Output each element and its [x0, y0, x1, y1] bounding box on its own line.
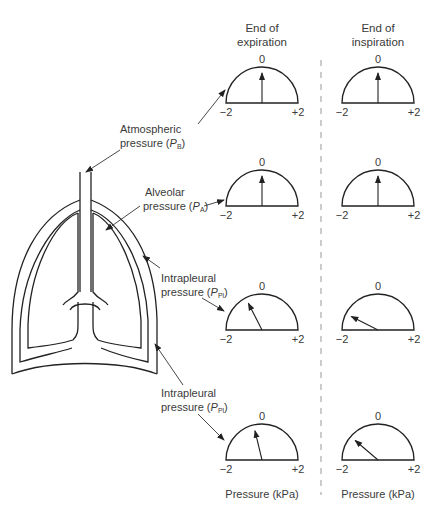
- gauge-alveolar-expiration: 0−2+2: [220, 156, 305, 221]
- column-header-expiration-line2: expiration: [237, 36, 287, 48]
- arrow-intrapleural1-to-gauge: [202, 298, 224, 311]
- respiratory-pressure-diagram: End of expiration End of inspiration 0−2…: [0, 0, 440, 513]
- gauge-max-label: +2: [408, 106, 421, 118]
- gauge-needle: [355, 441, 378, 461]
- gauge-zero-label: 0: [259, 280, 265, 292]
- arrow-atmospheric-to-trachea: [86, 150, 120, 172]
- gauge-zero-label: 0: [375, 53, 381, 65]
- gauge-min-label: −2: [336, 209, 349, 221]
- gauge-intrapleural_1-inspiration: 0−2+2: [336, 280, 421, 345]
- arrow-intrapleural2-to-gauge: [198, 414, 224, 440]
- gauge-needle: [351, 316, 378, 330]
- alveolar-label-line1: Alveolar: [145, 186, 185, 198]
- gauge-min-label: −2: [220, 463, 233, 475]
- gauge-zero-label: 0: [259, 156, 265, 168]
- label-alveolar-pressure: Alveolar pressure (PA): [143, 186, 208, 213]
- gauge-intrapleural_1-expiration: 0−2+2: [220, 280, 305, 345]
- gauge-dial: [226, 424, 298, 460]
- gauge-needle: [248, 303, 262, 330]
- gauge-min-label: −2: [220, 333, 233, 345]
- gauge-dial: [342, 294, 414, 330]
- gauge-min-label: −2: [220, 106, 233, 118]
- gauge-needle: [255, 431, 262, 460]
- intrapleural1-label-line2: pressure (PPl): [161, 286, 228, 299]
- label-intrapleural-pressure-2: Intrapleural pressure (PPl): [161, 387, 228, 414]
- gauge-max-label: +2: [408, 463, 421, 475]
- gauge-max-label: +2: [292, 106, 305, 118]
- atmospheric-label-line2: pressure (PB): [120, 137, 185, 150]
- gauge-zero-label: 0: [259, 410, 265, 422]
- unit-label-expiration: Pressure (kPa): [225, 488, 298, 500]
- atmospheric-label-line1: Atmospheric: [120, 123, 182, 135]
- lung-illustration: [12, 172, 157, 374]
- unit-label-inspiration: Pressure (kPa): [341, 488, 414, 500]
- column-header-expiration-line1: End of: [245, 22, 279, 34]
- gauge-alveolar-inspiration: 0−2+2: [336, 156, 421, 221]
- gauge-dial: [342, 424, 414, 460]
- arrow-alveolar-to-lung: [106, 206, 140, 230]
- column-header-inspiration-line1: End of: [361, 22, 395, 34]
- gauge-max-label: +2: [292, 463, 305, 475]
- gauge-zero-label: 0: [259, 53, 265, 65]
- gauge-intrapleural_2-expiration: 0−2+2: [220, 410, 305, 475]
- intrapleural2-label-line1: Intrapleural: [161, 387, 216, 399]
- gauge-dial: [226, 294, 298, 330]
- label-atmospheric-pressure: Atmospheric pressure (PB): [120, 123, 185, 150]
- gauge-zero-label: 0: [375, 156, 381, 168]
- intrapleural1-label-line1: Intrapleural: [161, 272, 216, 284]
- gauge-max-label: +2: [408, 333, 421, 345]
- gauge-min-label: −2: [220, 209, 233, 221]
- gauge-min-label: −2: [336, 463, 349, 475]
- gauge-intrapleural_2-inspiration: 0−2+2: [336, 410, 421, 475]
- gauge-max-label: +2: [292, 333, 305, 345]
- arrow-intrapleural2-to-pleura: [155, 344, 183, 385]
- column-header-inspiration-line2: inspiration: [352, 36, 404, 48]
- gauge-atmospheric-expiration: 0−2+2: [220, 53, 305, 118]
- arrow-intrapleural1-to-pleura: [143, 256, 160, 268]
- gauge-max-label: +2: [292, 209, 305, 221]
- gauge-atmospheric-inspiration: 0−2+2: [336, 53, 421, 118]
- gauge-zero-label: 0: [375, 410, 381, 422]
- intrapleural2-label-line2: pressure (PPl): [161, 401, 228, 414]
- label-intrapleural-pressure-1: Intrapleural pressure (PPl): [161, 272, 228, 299]
- alveolar-label-line2: pressure (PA): [143, 200, 208, 213]
- gauge-min-label: −2: [336, 333, 349, 345]
- gauge-grid: 0−2+20−2+20−2+20−2+20−2+20−2+20−2+20−2+2: [220, 53, 421, 475]
- gauge-min-label: −2: [336, 106, 349, 118]
- gauge-max-label: +2: [408, 209, 421, 221]
- gauge-zero-label: 0: [375, 280, 381, 292]
